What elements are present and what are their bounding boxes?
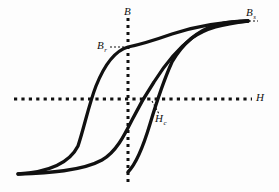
saturation-label: Bs xyxy=(246,7,255,18)
saturation-subscript: s xyxy=(253,13,256,21)
coercivity-label: Hc xyxy=(155,113,166,124)
hysteresis-loop-figure: B H Bs Br Hc xyxy=(0,0,279,192)
coercivity-subscript: c xyxy=(163,119,166,127)
remanence-subscript: r xyxy=(104,46,107,54)
h-axis-label: H xyxy=(256,92,264,103)
remanence-label: Br xyxy=(97,40,106,51)
b-axis-label: B xyxy=(124,6,131,17)
hysteresis-plot-canvas xyxy=(0,0,279,192)
